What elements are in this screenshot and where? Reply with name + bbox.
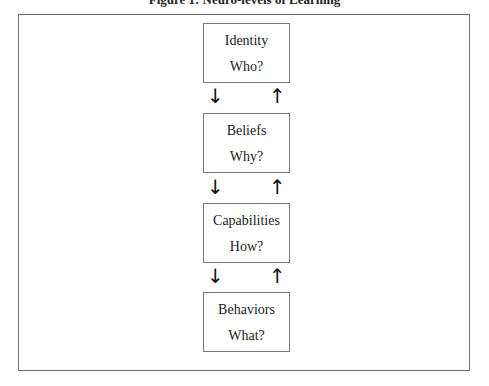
level-question: What? — [204, 328, 289, 344]
down-arrow-icon: ↓ — [207, 177, 224, 197]
level-name: Capabilities — [204, 213, 289, 229]
level-box-identity: Identity Who? — [203, 23, 290, 83]
up-arrow-icon: ↑ — [269, 86, 286, 106]
level-box-capabilities: Capabilities How? — [203, 203, 290, 263]
level-name: Beliefs — [204, 123, 289, 139]
level-question: Why? — [204, 149, 289, 165]
figure-title: Figure 1: Neuro-levels of Learning — [0, 0, 489, 8]
down-arrow-icon: ↓ — [207, 266, 224, 286]
level-question: How? — [204, 239, 289, 255]
level-box-beliefs: Beliefs Why? — [203, 113, 290, 173]
level-box-behaviors: Behaviors What? — [203, 292, 290, 352]
level-name: Behaviors — [204, 302, 289, 318]
up-arrow-icon: ↑ — [269, 177, 286, 197]
level-question: Who? — [204, 59, 289, 75]
level-name: Identity — [204, 33, 289, 49]
down-arrow-icon: ↓ — [207, 86, 224, 106]
up-arrow-icon: ↑ — [269, 266, 286, 286]
